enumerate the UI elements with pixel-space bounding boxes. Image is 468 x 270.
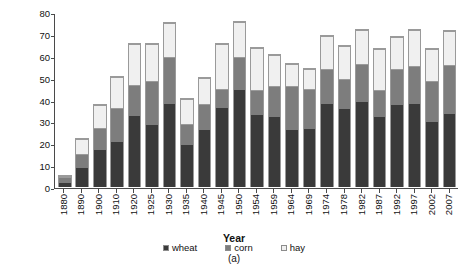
y-tick-label: 30	[28, 119, 50, 129]
bar-segment-wheat	[391, 105, 403, 187]
x-tick-mark	[221, 189, 222, 193]
x-label-slot: 1925	[143, 194, 161, 234]
x-tick-label: 1978	[339, 194, 349, 215]
stacked-bar[interactable]	[215, 43, 229, 187]
bar-segment-hay	[181, 99, 193, 124]
bar-segment-wheat	[199, 130, 211, 187]
x-tick-mark	[379, 189, 380, 193]
stacked-bar[interactable]	[198, 77, 212, 187]
x-label-slot: 1974	[318, 194, 336, 234]
x-tick-label: 1959	[269, 194, 279, 215]
x-label-slot: 1978	[335, 194, 353, 234]
bar-slot	[248, 14, 265, 187]
x-label-slot: 1910	[108, 194, 126, 234]
y-tick-mark	[51, 189, 54, 190]
stacked-bar[interactable]	[355, 29, 369, 187]
stacked-bar[interactable]	[390, 36, 404, 187]
bar-segment-wheat	[444, 114, 456, 187]
x-tick-label: 1940	[199, 194, 209, 215]
bar-segment-corn	[234, 57, 246, 90]
bar-slot	[423, 14, 440, 187]
x-tick-label: 1920	[129, 194, 139, 215]
x-tick-label: 2002	[427, 194, 437, 215]
legend-swatch-icon	[281, 245, 287, 251]
x-label-slot: 1880	[55, 194, 73, 234]
bar-segment-corn	[444, 65, 456, 114]
bar-segment-corn	[269, 86, 281, 117]
stacked-bar[interactable]	[110, 76, 124, 187]
stacked-bar[interactable]	[303, 68, 317, 187]
stacked-bar[interactable]	[338, 45, 352, 187]
x-tick-mark	[151, 189, 152, 193]
bar-segment-hay	[146, 44, 158, 81]
bar-segment-wheat	[286, 130, 298, 187]
bar-segment-hay	[199, 78, 211, 104]
x-tick-label: 1950	[234, 194, 244, 215]
x-tick-mark	[273, 189, 274, 193]
y-tick-mark	[51, 80, 54, 81]
bar-segment-corn	[391, 69, 403, 105]
x-label-slot: 1930	[160, 194, 178, 234]
legend-swatch-icon	[225, 245, 231, 251]
bar-slot	[441, 14, 458, 187]
stacked-bar[interactable]	[443, 30, 457, 187]
bar-segment-wheat	[216, 108, 228, 187]
bar-segment-wheat	[251, 115, 263, 187]
x-tick-label: 1969	[304, 194, 314, 215]
y-axis-tick-labels: 01020304050607080	[28, 14, 50, 189]
stacked-bar[interactable]	[373, 48, 387, 187]
bar-segment-corn	[76, 154, 88, 168]
x-tick-label: 1910	[111, 194, 121, 215]
bar-slot	[196, 14, 213, 187]
y-tick-label: 50	[28, 75, 50, 85]
x-tick-mark	[186, 189, 187, 193]
stacked-bar[interactable]	[425, 48, 439, 187]
x-tick-mark	[256, 189, 257, 193]
bar-segment-corn	[339, 79, 351, 110]
bar-segment-corn	[251, 90, 263, 115]
bar-segment-wheat	[94, 150, 106, 187]
x-tick-label: 1997	[409, 194, 419, 215]
x-tick-label: 1964	[286, 194, 296, 215]
chart-legend: wheatcornhay	[0, 242, 468, 253]
legend-label: corn	[234, 242, 252, 253]
stacked-bar[interactable]	[145, 43, 159, 187]
x-label-slot: 1969	[300, 194, 318, 234]
legend-swatch-icon	[163, 245, 169, 251]
y-tick-label: 0	[28, 184, 50, 194]
stacked-bar[interactable]	[268, 54, 282, 187]
bar-segment-corn	[216, 89, 228, 109]
stacked-bar[interactable]	[250, 47, 264, 187]
bar-segment-wheat	[111, 142, 123, 187]
legend-item-wheat[interactable]: wheat	[163, 242, 197, 253]
legend-item-corn[interactable]: corn	[225, 242, 252, 253]
bar-slot	[161, 14, 178, 187]
stacked-bar[interactable]	[75, 138, 89, 187]
bar-segment-hay	[339, 46, 351, 79]
chart-figure: Acres (millions) 01020304050607080 18801…	[0, 0, 468, 270]
stacked-bar[interactable]	[285, 63, 299, 187]
x-tick-mark	[449, 189, 450, 193]
x-tick-label: 1945	[216, 194, 226, 215]
x-label-slot: 2007	[440, 194, 458, 234]
x-tick-mark	[63, 189, 64, 193]
stacked-bar[interactable]	[128, 43, 142, 187]
stacked-bar[interactable]	[93, 104, 107, 187]
stacked-bar[interactable]	[180, 98, 194, 187]
y-tick-label: 70	[28, 31, 50, 41]
bar-segment-hay	[444, 31, 456, 65]
bar-segment-wheat	[164, 104, 176, 187]
bar-slot	[266, 14, 283, 187]
stacked-bar[interactable]	[233, 21, 247, 187]
stacked-bar[interactable]	[58, 175, 72, 187]
bar-slot	[126, 14, 143, 187]
stacked-bar[interactable]	[163, 22, 177, 187]
bar-segment-hay	[409, 30, 421, 66]
stacked-bar[interactable]	[320, 35, 334, 187]
bar-segment-wheat	[181, 145, 193, 187]
legend-item-hay[interactable]: hay	[281, 242, 305, 253]
x-tick-label: 1992	[392, 194, 402, 215]
stacked-bar[interactable]	[408, 29, 422, 187]
bar-slot	[318, 14, 335, 187]
bar-segment-wheat	[304, 129, 316, 187]
